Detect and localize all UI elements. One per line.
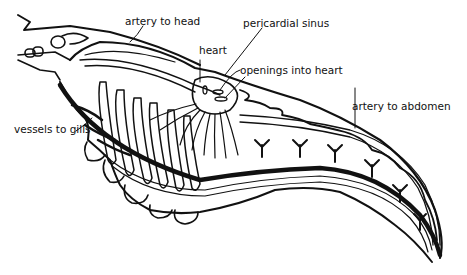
label-artery-to-head: artery to head [125,16,200,27]
label-vessels-to-gills: vessels to gills [14,124,91,135]
label-artery-to-abdomen: artery to abdomen [352,101,451,112]
antenna-bases [18,33,88,80]
circulatory-diagram [0,0,467,275]
heart [192,77,237,114]
label-pericardial-sinus: pericardial sinus [243,18,329,29]
label-openings-into-heart: openings into heart [240,65,343,76]
label-heart: heart [199,45,227,56]
